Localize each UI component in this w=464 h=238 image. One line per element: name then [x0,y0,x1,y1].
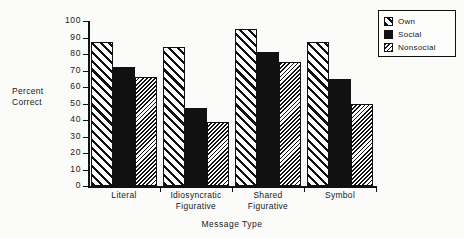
bar-own-2 [235,29,257,186]
bar-nonsocial-2 [279,62,301,186]
y-axis-tick-mark [83,87,90,88]
y-axis-label-line-1: Percent [12,86,74,97]
y-axis-tick-label: 40 [70,114,81,124]
y-axis-tick-mark [83,170,90,171]
y-axis-tick-mark [83,71,90,72]
chart-legend: Own Social Nonsocial [378,10,456,57]
legend-label-nonsocial: Nonsocial [398,43,436,52]
y-axis-tick-label: 50 [70,98,81,108]
x-axis-tick-label-line: Figurative [223,201,313,212]
y-axis-tick-mark [83,120,90,121]
bar-social-0 [113,67,135,186]
legend-swatch-social-icon [384,30,393,39]
bar-social-1 [185,108,207,186]
y-axis-tick-mark [83,137,90,138]
y-axis-tick-mark [83,153,90,154]
y-axis-tick-mark [83,186,90,187]
y-axis-tick-label: 60 [70,81,81,91]
legend-item-social: Social [384,28,451,40]
legend-item-own: Own [384,15,451,27]
y-axis-tick-label: 90 [70,32,81,42]
bar-social-3 [329,79,351,186]
y-axis-tick-label: 0 [76,180,81,190]
y-axis-label-line-2: Correct [12,97,74,108]
y-axis-tick-label: 30 [70,131,81,141]
bar-chart-figure: Percent Correct 0102030405060708090100 L… [0,0,464,238]
y-axis-tick-label: 100 [65,15,81,25]
bar-own-3 [307,42,329,186]
y-axis-label: Percent Correct [12,86,74,108]
legend-swatch-nonsocial-icon [384,43,393,52]
legend-label-own: Own [398,17,415,26]
y-axis-tick-label: 70 [70,65,81,75]
x-axis-tick-label-line: Symbol [295,190,385,201]
legend-swatch-own-icon [384,17,393,26]
x-axis-label: Message Type [0,219,464,229]
y-axis-tick-mark [83,104,90,105]
bar-nonsocial-3 [351,104,373,187]
legend-item-nonsocial: Nonsocial [384,41,451,53]
bar-nonsocial-0 [135,77,157,186]
bar-own-0 [91,42,113,186]
y-axis-tick-mark [83,38,90,39]
y-axis-tick-mark [83,54,90,55]
bar-own-1 [163,47,185,186]
legend-label-social: Social [398,30,422,39]
plot-area: 0102030405060708090100 [88,21,376,186]
y-axis-tick-label: 20 [70,147,81,157]
y-axis-tick-label: 80 [70,48,81,58]
bar-social-2 [257,52,279,186]
y-axis-tick-label: 10 [70,164,81,174]
y-axis-tick-mark [83,21,90,22]
x-axis-tick-label: Symbol [295,190,385,201]
bar-nonsocial-1 [207,122,229,186]
